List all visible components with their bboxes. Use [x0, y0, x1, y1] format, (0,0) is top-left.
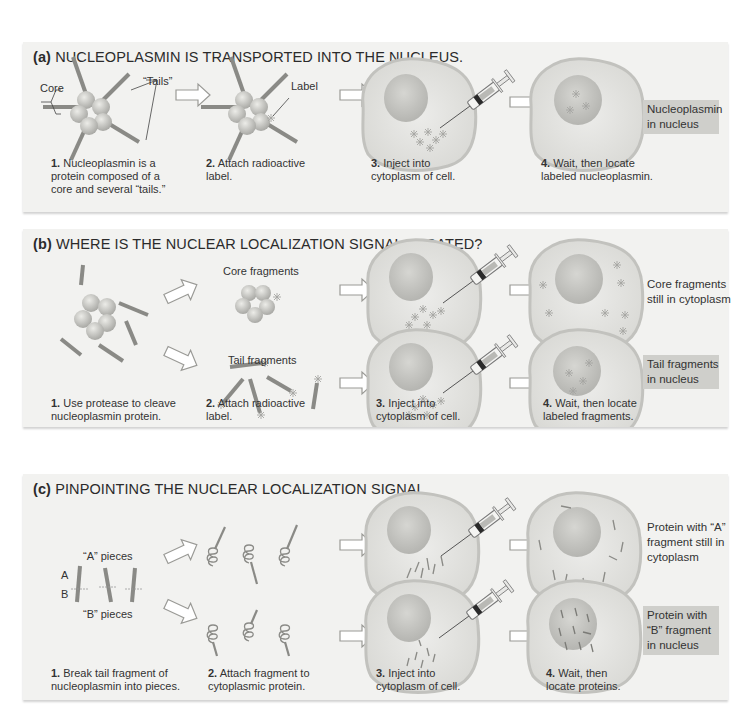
b-fragment-proteins-icon [207, 610, 289, 656]
label-label: Label [291, 80, 318, 93]
core-label: Core [40, 82, 64, 95]
step-2-caption: 2. Attach radioactive label. [206, 157, 305, 183]
a-letter-label: A [61, 569, 68, 582]
result-nucleoplasmin-in-nucleus: Nucleoplasminin nucleus [643, 100, 719, 134]
nucleoplasmin-icon [41, 57, 157, 160]
core-fragments-label: Core fragments [223, 265, 299, 278]
step-4-caption: 4. Wait, then locate labeled nucleoplasm… [541, 157, 653, 183]
b-letter-label: B [61, 588, 68, 601]
panel-c: (c) PINPOINTING THE NUCLEAR LOCALIZATION… [23, 474, 728, 700]
labeled-nucleoplasmin-icon [201, 57, 297, 160]
step-2-caption: 2. Attach radioactive label. [206, 397, 305, 423]
step-1-caption: 1. Use protease to cleave nucleoplasmin … [51, 397, 176, 423]
result-tail-in-nucleus: Tail fragmentsin nucleus [643, 355, 719, 389]
step-3-caption: 3. Inject into cytoplasm of cell. [371, 157, 455, 183]
tails-label: “Tails” [143, 75, 172, 88]
step-1-caption: 1. Nucleoplasmin is a protein composed o… [51, 157, 165, 196]
step-3-caption: 3. Inject into cytoplasm of cell. [376, 397, 460, 423]
result-core-in-cytoplasm: Core fragmentsstill in cytoplasm [643, 275, 735, 309]
panel-a: (a) NUCLEOPLASMIN IS TRANSPORTED INTO TH… [23, 42, 728, 212]
step-4-caption: 4. Wait, then locate proteins. [546, 667, 621, 693]
result-b-in-nucleus: Protein with“B” fragmentin nucleus [643, 606, 719, 655]
step-2-caption: 2. Attach fragment to cytoplasmic protei… [208, 667, 310, 693]
step-4-caption: 4. Wait, then locate labeled fragments. [543, 397, 637, 423]
b-pieces-label: “B” pieces [83, 608, 133, 621]
cell-injection-icon [363, 59, 516, 171]
core-fragments-icon [235, 285, 281, 323]
step-1-caption: 1. Break tail fragment of nucleoplasmin … [51, 667, 180, 693]
tail-pieces-icon [71, 566, 143, 602]
cell-result-icon [531, 59, 644, 171]
step-3-caption: 3. Inject into cytoplasm of cell. [376, 667, 460, 693]
cleaved-nucleoplasmin-icon [61, 265, 148, 361]
panel-b: (b) WHERE IS THE NUCLEAR LOCALIZATION SI… [23, 229, 728, 427]
tail-fragments-label: Tail fragments [228, 354, 296, 367]
a-pieces-label: “A” pieces [83, 550, 133, 563]
result-a-in-cytoplasm: Protein with “A”fragment still incytopla… [643, 518, 730, 567]
a-fragment-proteins-icon [207, 525, 297, 584]
